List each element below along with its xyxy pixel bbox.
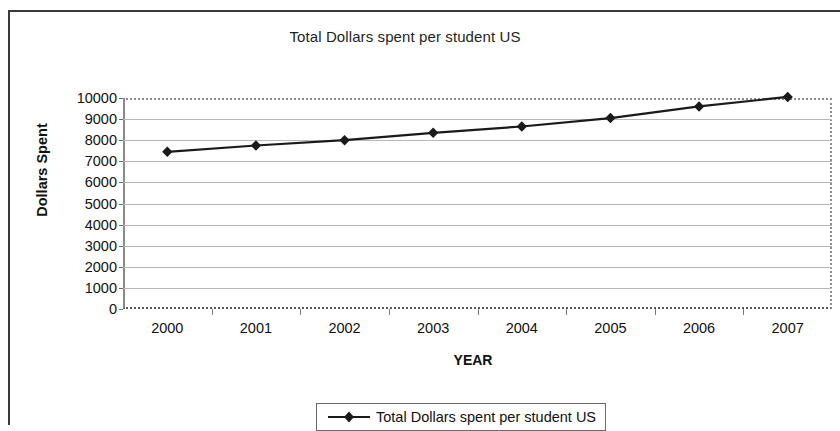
data-point-marker	[782, 92, 792, 102]
x-axis-tick-label: 2000	[127, 320, 207, 336]
y-axis-tick-label: 9000	[53, 112, 117, 127]
x-axis-tick-mark	[743, 309, 744, 315]
data-point-marker	[251, 140, 261, 150]
y-axis-tick-label: 8000	[53, 133, 117, 148]
y-axis-title: Dollars Spent	[34, 110, 50, 230]
data-point-marker	[694, 101, 704, 111]
chart-frame: Total Dollars spent per student US Dolla…	[8, 10, 840, 425]
x-axis-tick-mark	[655, 309, 656, 315]
data-point-marker	[339, 135, 349, 145]
y-axis-tick-label: 10000	[53, 91, 117, 106]
y-axis-tick-label: 6000	[53, 175, 117, 190]
x-axis-tick-mark	[212, 309, 213, 315]
y-axis-tick-label: 1000	[53, 281, 117, 296]
y-axis-tick-label: 2000	[53, 260, 117, 275]
chart-legend: Total Dollars spent per student US	[316, 403, 606, 431]
data-point-marker	[517, 121, 527, 131]
y-axis-tick-label: 0	[53, 302, 117, 317]
legend-label: Total Dollars spent per student US	[376, 409, 596, 425]
y-axis-tick-label: 3000	[53, 238, 117, 253]
chart-title: Total Dollars spent per student US	[10, 28, 800, 45]
x-axis-tick-label: 2002	[305, 320, 385, 336]
x-axis-tick-label: 2007	[748, 320, 828, 336]
plot-area: 0100020003000400050006000700080009000100…	[123, 88, 832, 309]
x-axis-tick-mark	[300, 309, 301, 315]
x-axis-tick-mark	[478, 309, 479, 315]
x-axis-tick-label: 2003	[393, 320, 473, 336]
y-axis-tick-mark	[119, 309, 123, 310]
x-axis-tick-label: 2005	[570, 320, 650, 336]
x-axis-tick-label: 2001	[216, 320, 296, 336]
series-line-total-dollars-spent-per-student-us	[123, 98, 832, 309]
series-line	[167, 97, 787, 152]
x-axis-tick-mark	[566, 309, 567, 315]
legend-marker-icon	[326, 410, 372, 424]
data-point-marker	[162, 147, 172, 157]
x-axis-tick-label: 2006	[659, 320, 739, 336]
data-point-marker	[428, 128, 438, 138]
x-axis-title: YEAR	[114, 352, 832, 368]
y-axis-tick-label: 5000	[53, 196, 117, 211]
y-axis-tick-label: 4000	[53, 217, 117, 232]
x-axis-tick-label: 2004	[482, 320, 562, 336]
x-axis-tick-mark	[389, 309, 390, 315]
y-axis-tick-label: 7000	[53, 154, 117, 169]
data-point-marker	[605, 113, 615, 123]
